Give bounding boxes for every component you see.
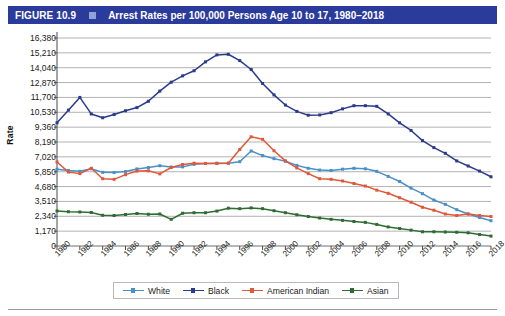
- series-marker: [67, 171, 70, 174]
- series-marker: [295, 110, 298, 113]
- series-marker: [455, 231, 458, 234]
- series-marker: [387, 225, 390, 228]
- series-marker: [261, 207, 264, 210]
- series-marker: [410, 201, 413, 204]
- series-marker: [307, 215, 310, 218]
- series-marker: [421, 230, 424, 233]
- series-marker: [78, 210, 81, 213]
- series-marker: [341, 219, 344, 222]
- series-marker: [330, 169, 333, 172]
- series-marker: [387, 112, 390, 115]
- legend-swatch-icon: [242, 286, 263, 295]
- legend-item-asian[interactable]: Asian: [342, 286, 389, 296]
- legend-item-american-indian[interactable]: American Indian: [242, 286, 329, 296]
- series-marker: [284, 211, 287, 214]
- series-marker: [250, 150, 253, 153]
- series-marker: [273, 93, 276, 96]
- series-marker: [250, 206, 253, 209]
- series-marker: [307, 172, 310, 175]
- series-marker: [181, 74, 184, 77]
- series-marker: [432, 146, 435, 149]
- series-marker: [135, 170, 138, 173]
- series-marker: [352, 104, 355, 107]
- series-marker: [238, 148, 241, 151]
- series-marker: [181, 163, 184, 166]
- series-marker: [273, 149, 276, 152]
- series-marker: [398, 121, 401, 124]
- series-marker: [78, 172, 81, 175]
- series-marker: [158, 213, 161, 216]
- series-marker: [135, 212, 138, 215]
- series-marker: [455, 159, 458, 162]
- bottom-divider: [8, 309, 497, 310]
- series-marker: [67, 109, 70, 112]
- series-marker: [56, 121, 59, 124]
- series-marker: [101, 116, 104, 119]
- series-marker: [147, 169, 150, 172]
- series-marker: [227, 53, 230, 56]
- series-marker: [250, 135, 253, 138]
- series-marker: [158, 172, 161, 175]
- plot-area: Rate 01,1702,3403,5104,6805,8507,0208,19…: [0, 26, 505, 256]
- series-marker: [410, 129, 413, 132]
- series-marker: [490, 235, 493, 238]
- series-marker: [455, 214, 458, 217]
- series-marker: [341, 107, 344, 110]
- legend-label: White: [148, 286, 170, 296]
- legend-item-black[interactable]: Black: [183, 286, 229, 296]
- series-marker: [227, 207, 230, 210]
- series-marker: [113, 178, 116, 181]
- series-marker: [364, 104, 367, 107]
- figure-number-label: FIGURE 10.9: [15, 10, 76, 21]
- series-marker: [432, 230, 435, 233]
- series-marker: [261, 154, 264, 157]
- x-axis-tick-labels: 1980198219841986198819901992199419961998…: [0, 252, 505, 286]
- series-marker: [273, 157, 276, 160]
- series-marker: [170, 218, 173, 221]
- series-marker: [341, 179, 344, 182]
- series-marker: [215, 210, 218, 213]
- series-marker: [455, 208, 458, 211]
- series-marker: [421, 139, 424, 142]
- series-marker: [490, 215, 493, 218]
- series-marker: [467, 231, 470, 234]
- series-marker: [467, 213, 470, 216]
- series-marker: [238, 207, 241, 210]
- series-marker: [193, 69, 196, 72]
- square-bullet-icon: [89, 12, 96, 19]
- series-marker: [250, 68, 253, 71]
- series-marker: [124, 173, 127, 176]
- series-marker: [432, 199, 435, 202]
- series-marker: [444, 203, 447, 206]
- series-marker: [113, 113, 116, 116]
- series-marker: [181, 212, 184, 215]
- chart-canvas: [0, 26, 505, 256]
- series-marker: [444, 152, 447, 155]
- series-line-american-indian: [57, 137, 491, 217]
- series-marker: [78, 96, 81, 99]
- series-marker: [261, 138, 264, 141]
- series-marker: [444, 213, 447, 216]
- series-marker: [387, 192, 390, 195]
- series-marker: [158, 164, 161, 167]
- series-marker: [238, 160, 241, 163]
- figure-container: FIGURE 10.9 Arrest Rates per 100,000 Per…: [0, 0, 505, 316]
- series-marker: [478, 233, 481, 236]
- legend-label: American Indian: [267, 286, 329, 296]
- figure-title-label: Arrest Rates per 100,000 Persons Age 10 …: [108, 10, 384, 21]
- series-marker: [318, 113, 321, 116]
- series-marker: [284, 104, 287, 107]
- series-marker: [478, 214, 481, 217]
- series-marker: [352, 220, 355, 223]
- series-marker: [295, 213, 298, 216]
- series-marker: [90, 112, 93, 115]
- series-marker: [330, 178, 333, 181]
- series-marker: [147, 213, 150, 216]
- legend-item-white[interactable]: White: [123, 286, 170, 296]
- series-marker: [432, 209, 435, 212]
- series-marker: [352, 167, 355, 170]
- series-marker: [215, 53, 218, 56]
- series-marker: [124, 213, 127, 216]
- series-marker: [101, 171, 104, 174]
- series-marker: [295, 166, 298, 169]
